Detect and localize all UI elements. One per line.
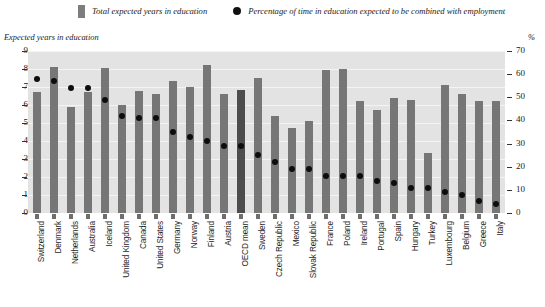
bar-slot[interactable] (318, 51, 335, 213)
bar-slot[interactable] (96, 51, 113, 213)
bar-slot[interactable] (403, 51, 420, 213)
bar-slot[interactable] (28, 51, 45, 213)
category-label-slot: Turkey (420, 214, 437, 307)
bar[interactable] (356, 101, 364, 214)
bar[interactable] (424, 153, 432, 213)
legend-item-bar-series: Total expected years in education (78, 5, 207, 18)
bar-slot[interactable] (420, 51, 437, 213)
bar-slot[interactable] (454, 51, 471, 213)
bar[interactable] (254, 78, 262, 213)
bar[interactable] (373, 110, 381, 213)
data-point-marker[interactable] (323, 173, 329, 179)
data-point-marker[interactable] (34, 76, 40, 82)
left-tick-label: 6 (14, 99, 28, 109)
data-point-marker[interactable] (374, 178, 380, 184)
bar-slot[interactable] (147, 51, 164, 213)
bar[interactable] (220, 94, 228, 213)
category-label-slot: United Kingdom (113, 214, 130, 307)
data-point-marker[interactable] (306, 166, 312, 172)
bar-slot[interactable] (45, 51, 62, 213)
bar-slot[interactable] (369, 51, 386, 213)
bar-slot[interactable] (301, 51, 318, 213)
bar-slot[interactable] (352, 51, 369, 213)
bar[interactable] (186, 87, 194, 213)
bar-slot[interactable] (471, 51, 488, 213)
category-tick-mark (358, 214, 362, 219)
data-point-marker[interactable] (153, 115, 159, 121)
data-point-marker[interactable] (136, 115, 142, 121)
bar[interactable] (118, 105, 126, 213)
category-tick-mark (409, 214, 413, 219)
legend-bar-label: Total expected years in education (92, 6, 207, 16)
data-point-marker[interactable] (102, 97, 108, 103)
right-tick-mark (507, 74, 512, 75)
bar[interactable] (33, 92, 41, 214)
bar[interactable] (84, 92, 92, 213)
bar-slot[interactable] (113, 51, 130, 213)
bar-slot[interactable] (249, 51, 266, 213)
legend-dot-marker-icon (233, 7, 241, 15)
bar[interactable] (492, 101, 500, 213)
data-point-marker[interactable] (272, 159, 278, 165)
category-tick-mark (426, 214, 430, 219)
bar[interactable] (169, 81, 177, 213)
category-label-slot: Poland (335, 214, 352, 307)
data-point-marker[interactable] (289, 166, 295, 172)
plot-area (28, 51, 505, 213)
bar[interactable] (475, 101, 483, 213)
bar[interactable] (390, 98, 398, 213)
data-point-marker[interactable] (238, 143, 244, 149)
category-label-slot: Portugal (369, 214, 386, 307)
data-point-marker[interactable] (51, 78, 57, 84)
left-tick-mark (22, 213, 27, 214)
bar-slot[interactable] (266, 51, 283, 213)
data-point-marker[interactable] (221, 143, 227, 149)
data-point-marker[interactable] (68, 85, 74, 91)
category-tick-mark (290, 214, 294, 219)
bar-slot[interactable] (283, 51, 300, 213)
bar-slot[interactable] (79, 51, 96, 213)
category-tick-mark (120, 214, 124, 219)
bar-slot[interactable] (215, 51, 232, 213)
bar-slot[interactable] (232, 51, 249, 213)
bar[interactable] (101, 68, 109, 213)
legend-bar-swatch-icon (78, 5, 85, 18)
bar[interactable] (135, 91, 143, 213)
bar[interactable] (237, 90, 245, 213)
left-tick-mark (22, 195, 27, 196)
bar-slot[interactable] (198, 51, 215, 213)
data-point-marker[interactable] (425, 185, 431, 191)
category-tick-mark (86, 214, 90, 219)
bar[interactable] (407, 100, 415, 213)
category-tick-mark (69, 214, 73, 219)
left-tick-label: 1 (14, 189, 28, 199)
bar-slot[interactable] (335, 51, 352, 213)
category-label-slot: Australia (79, 214, 96, 307)
category-tick-mark (171, 214, 175, 219)
category-label-slot: Norway (181, 214, 198, 307)
bar-slot[interactable] (437, 51, 454, 213)
bar[interactable] (339, 69, 347, 213)
data-point-marker[interactable] (187, 134, 193, 140)
bar-slot[interactable] (130, 51, 147, 213)
bar[interactable] (322, 70, 330, 213)
bar[interactable] (50, 67, 58, 213)
bar-slot[interactable] (181, 51, 198, 213)
bar[interactable] (152, 94, 160, 213)
category-label-slot: France (318, 214, 335, 307)
bar[interactable] (67, 107, 75, 213)
category-tick-mark (477, 214, 481, 219)
data-point-marker[interactable] (170, 129, 176, 135)
bar-slot[interactable] (164, 51, 181, 213)
category-label-slot: Iceland (96, 214, 113, 307)
right-tick-mark (507, 144, 512, 145)
data-point-marker[interactable] (459, 192, 465, 198)
bar-slot[interactable] (62, 51, 79, 213)
bar-slot[interactable] (488, 51, 505, 213)
category-label-slot: Switzerland (28, 214, 45, 307)
data-point-marker[interactable] (408, 185, 414, 191)
data-point-marker[interactable] (119, 113, 125, 119)
bar-slot[interactable] (386, 51, 403, 213)
data-point-marker[interactable] (85, 85, 91, 91)
left-tick-label: 5 (14, 117, 28, 127)
